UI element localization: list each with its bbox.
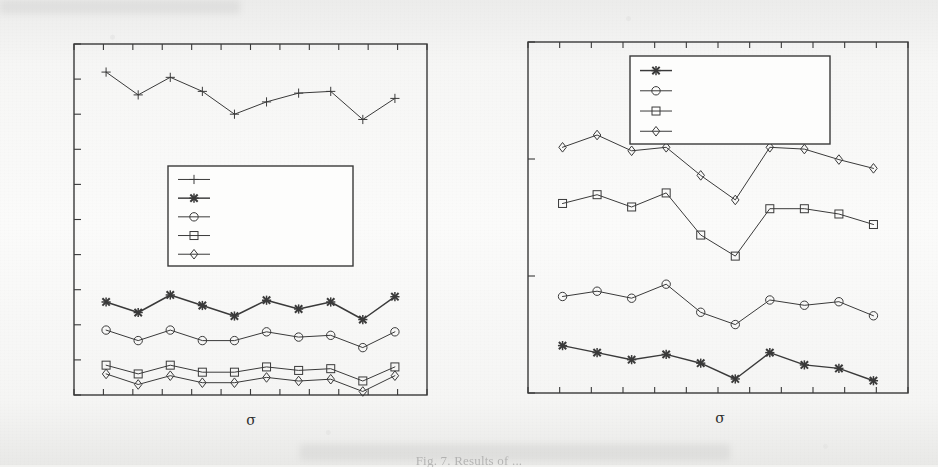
marker-cross — [390, 292, 399, 301]
chart-panel-right — [500, 34, 920, 404]
marker-plus — [230, 110, 239, 119]
marker-cross — [869, 376, 878, 385]
marker-cross — [294, 304, 303, 313]
legend[interactable] — [168, 166, 353, 266]
marker-cross — [651, 66, 660, 75]
marker-cross — [696, 359, 705, 368]
marker-cross — [731, 374, 740, 383]
marker-cross — [662, 350, 671, 359]
data-series-cross — [101, 290, 399, 324]
left-plot-svg — [60, 36, 440, 406]
marker-cross — [262, 296, 271, 305]
marker-cross — [189, 194, 198, 203]
marker-cross — [558, 341, 567, 350]
marker-plus — [294, 89, 303, 98]
right-xaxis-label: σ — [700, 410, 740, 426]
marker-cross — [134, 308, 143, 317]
marker-plus — [101, 67, 110, 76]
data-series-square — [559, 189, 878, 260]
marker-cross — [198, 301, 207, 310]
marker-cross — [230, 311, 239, 320]
right-plot-svg — [500, 34, 920, 404]
chart-panel-left — [60, 36, 440, 406]
data-series-plus — [101, 67, 399, 124]
marker-cross — [358, 315, 367, 324]
data-series-circle — [558, 280, 877, 329]
marker-cross — [627, 355, 636, 364]
marker-cross — [166, 290, 175, 299]
marker-cross — [326, 297, 335, 306]
marker-cross — [834, 364, 843, 373]
marker-cross — [101, 297, 110, 306]
data-series-square — [102, 361, 399, 385]
marker-cross — [592, 348, 601, 357]
scan-smudge — [0, 0, 240, 14]
data-series-circle — [102, 326, 399, 352]
marker-plus — [166, 73, 175, 82]
marker-cross — [765, 348, 774, 357]
marker-plus — [262, 97, 271, 106]
marker-plus — [198, 87, 207, 96]
left-xaxis-label: σ — [231, 412, 271, 428]
figure-caption: Fig. 7. Results of ... — [0, 453, 938, 467]
marker-cross — [800, 360, 809, 369]
data-series-cross — [558, 341, 878, 385]
marker-plus — [390, 94, 399, 103]
legend[interactable] — [630, 56, 830, 144]
marker-plus — [134, 90, 143, 99]
